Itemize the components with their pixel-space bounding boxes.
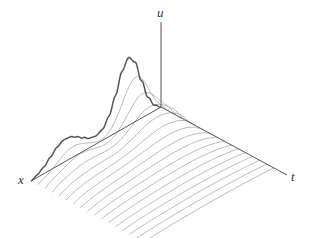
initial-curve-path — [31, 58, 161, 182]
t-axis-label: t — [291, 170, 295, 183]
time-slice-line — [109, 149, 239, 223]
time-slice-line — [137, 164, 267, 238]
x-axis-line — [31, 107, 161, 181]
t-axis-line — [161, 107, 287, 175]
axes — [31, 22, 287, 181]
time-slice-line — [94, 141, 224, 215]
x-axis-label: x — [18, 173, 24, 186]
time-slice-line — [130, 160, 260, 234]
u-axis-label: u — [157, 6, 164, 19]
time-slice-line — [116, 153, 246, 227]
time-slice-line — [45, 93, 175, 189]
initial-profile-curve — [31, 58, 161, 182]
surface-plot — [0, 0, 309, 238]
time-slice-line — [101, 145, 231, 219]
time-slice-line — [87, 137, 217, 211]
time-slice-line — [123, 156, 253, 230]
